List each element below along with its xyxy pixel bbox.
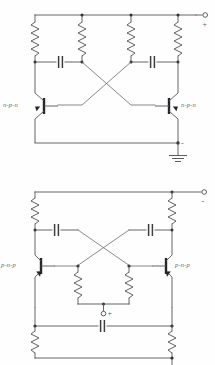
node-dot (177, 14, 180, 17)
plus-sign-top: + (202, 20, 207, 29)
resistor-r10 (168, 326, 176, 358)
bias-positive-terminal: + (78, 303, 129, 319)
node-dot (81, 14, 84, 17)
transistor-q2: n-p-n (155, 62, 196, 143)
transistor-q1-label: n-p-n (3, 101, 18, 108)
cross-coupling-wires-bottom (55, 230, 152, 266)
open-terminal-circle-icon (202, 190, 207, 195)
schematic-sheet: + (0, 0, 215, 365)
bottom-circuit-diagram: - (0, 180, 215, 365)
resistor-r1 (31, 15, 39, 62)
transistor-q3: p-n-p (0, 230, 55, 308)
open-terminal-circle-icon (203, 13, 208, 18)
resistor-r7 (74, 266, 82, 304)
resistor-r9 (31, 326, 39, 358)
ground-icon (169, 156, 187, 162)
resistor-r8 (125, 266, 133, 304)
node-dot (130, 14, 133, 17)
top-circuit-diagram: + (0, 0, 215, 180)
bottom-return-rail (35, 358, 172, 365)
resistor-r5 (31, 192, 39, 230)
cross-coupling-wires (58, 62, 155, 105)
capacitor-c5 (35, 320, 172, 332)
resistor-r2 (78, 15, 86, 62)
supply-positive-terminal: + (196, 13, 208, 29)
node-dot (170, 356, 173, 359)
plus-sign-bottom: + (108, 309, 113, 318)
minus-sign-top: - (181, 139, 184, 148)
capacitor-c2 (131, 56, 178, 68)
capacitor-c1 (35, 56, 82, 68)
minus-sign-bottom: - (201, 197, 204, 206)
open-terminal-circle-icon (101, 311, 106, 316)
resistor-r4 (174, 15, 182, 62)
transistor-q4: p-n-p (152, 230, 190, 308)
transistor-q4-label: p-n-p (174, 261, 190, 268)
resistor-r6 (168, 192, 176, 230)
resistor-r3 (127, 15, 135, 62)
supply-negative-terminal: - (172, 190, 207, 206)
transistor-q2-label: n-p-n (181, 101, 196, 108)
transistor-q3-label: p-n-p (0, 261, 16, 268)
capacitor-c3 (35, 224, 78, 236)
transistor-q1: n-p-n (3, 62, 58, 143)
capacitor-c4 (129, 224, 172, 236)
